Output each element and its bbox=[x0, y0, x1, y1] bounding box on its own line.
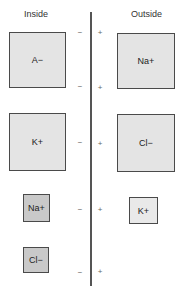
ion-label: K+ bbox=[138, 206, 149, 216]
ion-label: A− bbox=[32, 55, 43, 65]
negative-charge-mark: − bbox=[76, 269, 84, 277]
inside-ion-cl-minus: Cl− bbox=[23, 247, 49, 273]
outside-ion-k-plus: K+ bbox=[129, 197, 158, 224]
ion-label: Cl− bbox=[139, 138, 153, 148]
outside-heading: Outside bbox=[131, 9, 162, 19]
positive-charge-mark: + bbox=[96, 206, 104, 214]
negative-charge-mark: − bbox=[76, 83, 84, 91]
inside-ion-a-minus: A− bbox=[9, 32, 66, 88]
positive-charge-mark: + bbox=[96, 29, 104, 37]
ion-label: Cl− bbox=[29, 255, 43, 265]
inside-heading: Inside bbox=[24, 9, 48, 19]
inside-ion-na-plus: Na+ bbox=[23, 194, 50, 222]
outside-ion-na-plus: Na+ bbox=[117, 33, 175, 89]
ion-label: Na+ bbox=[28, 203, 45, 213]
positive-charge-mark: + bbox=[96, 84, 104, 92]
ion-label: Na+ bbox=[138, 56, 155, 66]
positive-charge-mark: + bbox=[96, 268, 104, 276]
outside-ion-cl-minus: Cl− bbox=[117, 114, 175, 172]
negative-charge-mark: − bbox=[76, 29, 84, 37]
positive-charge-mark: + bbox=[96, 140, 104, 148]
inside-ion-k-plus: K+ bbox=[9, 113, 66, 171]
negative-charge-mark: − bbox=[76, 139, 84, 147]
cell-membrane-line bbox=[90, 12, 92, 286]
ion-label: K+ bbox=[32, 137, 43, 147]
negative-charge-mark: − bbox=[76, 206, 84, 214]
